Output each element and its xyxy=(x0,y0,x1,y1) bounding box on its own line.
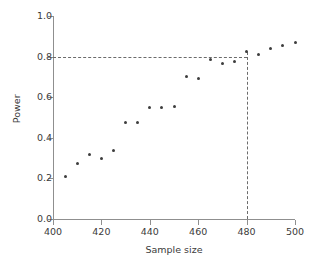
y-axis-tick-label: 0.8 xyxy=(18,52,52,62)
x-axis-tick-label: 500 xyxy=(275,227,310,237)
x-axis-tick-label: 440 xyxy=(130,227,170,237)
power-threshold-line xyxy=(53,57,247,58)
x-axis-tick xyxy=(53,220,54,225)
scatter-point xyxy=(245,50,248,53)
scatter-point xyxy=(185,75,188,78)
y-axis-tick-label: 0.2 xyxy=(18,173,52,183)
y-axis-tick-label: 0.0 xyxy=(18,214,52,224)
power-curve-chart: 0.00.20.40.60.81.0 400420440460480500 Po… xyxy=(0,0,310,269)
x-axis-tick-label: 460 xyxy=(178,227,218,237)
scatter-point xyxy=(257,53,260,56)
scatter-point xyxy=(64,175,67,178)
scatter-point xyxy=(148,106,151,109)
scatter-point xyxy=(76,162,79,165)
scatter-point xyxy=(124,121,127,124)
y-axis-tick-label: 1.0 xyxy=(18,11,52,21)
scatter-point xyxy=(88,153,91,156)
x-axis-tick xyxy=(198,220,199,225)
scatter-point xyxy=(160,106,163,109)
scatter-point xyxy=(221,62,224,65)
scatter-point xyxy=(233,60,236,63)
scatter-point xyxy=(100,157,103,160)
y-axis-tick-label: 0.4 xyxy=(18,133,52,143)
scatter-point xyxy=(173,105,176,108)
y-axis-title: Power xyxy=(12,79,22,139)
x-axis-title: Sample size xyxy=(53,245,295,255)
x-axis-tick-label: 400 xyxy=(33,227,73,237)
x-axis-tick-label: 420 xyxy=(81,227,121,237)
x-axis-tick xyxy=(101,220,102,225)
x-axis-tick xyxy=(295,220,296,225)
scatter-point xyxy=(197,77,200,80)
x-axis-tick xyxy=(150,220,151,225)
x-axis-tick-label: 480 xyxy=(227,227,267,237)
scatter-point xyxy=(136,121,139,124)
scatter-point xyxy=(294,41,297,44)
y-axis-tick-label: 0.6 xyxy=(18,92,52,102)
x-axis-tick xyxy=(247,220,248,225)
x-axis-line xyxy=(53,219,295,220)
required-sample-size-line xyxy=(247,52,248,219)
y-axis-line xyxy=(53,16,54,220)
scatter-point xyxy=(209,58,212,61)
scatter-point xyxy=(112,149,115,152)
scatter-point xyxy=(269,47,272,50)
scatter-point xyxy=(281,44,284,47)
